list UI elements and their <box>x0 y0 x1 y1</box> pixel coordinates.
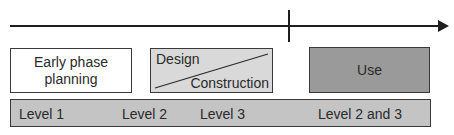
level-item: Level 2 and 3 <box>318 106 402 122</box>
phase-use-label: Use <box>357 62 382 78</box>
level-item: Level 2 <box>122 106 167 122</box>
level-item: Level 1 <box>19 106 64 122</box>
levels-bar: Level 1 Level 2 Level 3 Level 2 and 3 <box>10 99 431 127</box>
phase-use: Use <box>309 47 430 93</box>
phase-design-label: Design <box>156 51 200 67</box>
phase-early-planning: Early phase planning <box>10 48 132 93</box>
timeline-arrowhead-icon <box>438 20 449 32</box>
phase-construction-label: Construction <box>190 75 269 91</box>
timeline-axis <box>10 25 440 27</box>
phase-early-line2: planning <box>34 71 108 88</box>
milestone-tick <box>288 10 290 42</box>
phase-design-construction: Design Construction <box>150 48 273 93</box>
phase-early-line1: Early phase <box>34 54 108 71</box>
level-item: Level 3 <box>200 106 245 122</box>
